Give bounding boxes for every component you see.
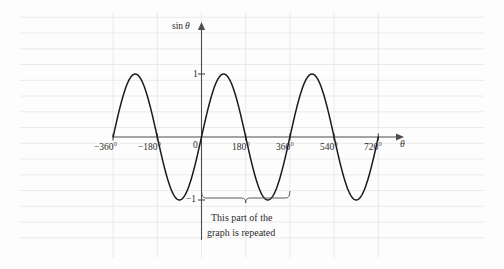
y-axis-label-sin: sin: [172, 21, 183, 31]
sine-graph-figure: sinθ θ 1 −1 0 −360° −180° 180° 360° 540°…: [0, 0, 504, 269]
y-axis-label-theta: θ: [185, 21, 190, 31]
annotation-line-1: This part of the: [211, 213, 272, 223]
x-tick-label-0: 0: [193, 141, 198, 151]
x-tick-label-neg360: −360°: [94, 143, 117, 153]
x-tick-label-720: 720°: [364, 143, 382, 153]
x-axis-label: θ: [400, 140, 405, 150]
x-tick-label-neg180: −180°: [138, 143, 161, 153]
x-tick-label-180: 180°: [232, 143, 250, 153]
y-tick-label-1: 1: [193, 70, 198, 80]
y-tick-label-neg1: −1: [186, 195, 196, 205]
x-tick-label-360: 360°: [276, 143, 294, 153]
y-axis-label: sinθ: [172, 22, 190, 32]
x-tick-label-540: 540°: [320, 143, 338, 153]
annotation-line-2: graph is repeated: [207, 228, 275, 238]
